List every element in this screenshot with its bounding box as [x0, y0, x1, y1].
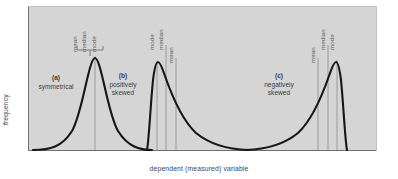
panel-c-stat-mode-label: mode — [328, 34, 335, 50]
panel-b-stat-mean-label: mean — [167, 47, 174, 63]
x-axis-label: dependent (measured) variable — [0, 165, 398, 172]
panel-b-name-line2: skewed — [112, 89, 134, 96]
panel-a-stat-median-label: median — [80, 31, 87, 52]
panel-b-stat-median-label: median — [157, 29, 164, 50]
panel-c-stat-median-label: median — [319, 29, 326, 50]
distribution-shapes-figure: frequency dependent (measured) variable … — [0, 0, 398, 179]
panel-a-caption: (a) symmetrical — [32, 74, 80, 91]
y-axis-label: frequency — [2, 94, 9, 125]
panel-c-name-line2: skewed — [268, 89, 290, 96]
panel-c-stat-mean-label: mean — [309, 47, 316, 63]
panel-c-tag: (c) — [250, 72, 308, 81]
panel-c-caption: (c) negatively skewed — [250, 72, 308, 98]
panel-a-stat-mean-label: mean — [71, 36, 78, 52]
panel-a-tag: (a) — [32, 74, 80, 83]
panel-b-name-line1: positively — [109, 81, 136, 88]
panel-b-stat-mode-label: mode — [148, 34, 155, 50]
panel-b-caption: (b) positively skewed — [95, 72, 151, 98]
panel-b-tag: (b) — [95, 72, 151, 81]
panel-a-name: symmetrical — [38, 83, 73, 90]
panel-c-name-line1: negatively — [264, 81, 294, 88]
panel-a-stat-mode-label: mode — [90, 36, 97, 52]
